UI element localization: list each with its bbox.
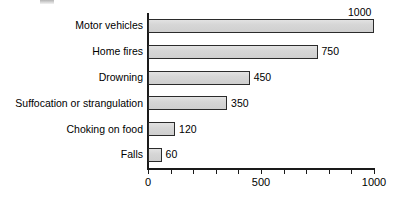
category-label: Falls [121, 149, 143, 160]
category-label: Suffocation or strangulation [15, 98, 143, 109]
category-label: Motor vehicles [75, 20, 143, 31]
bar-value-label: 750 [322, 46, 340, 57]
bar [148, 45, 318, 59]
bar-value-label: 60 [166, 149, 178, 160]
bar-row: Falls60 [0, 148, 394, 173]
bar [148, 19, 374, 33]
bar-value-label: 350 [231, 98, 249, 109]
category-label: Drowning [99, 72, 143, 83]
page-edge-artifact [40, 0, 54, 4]
x-axis-tick-label: 1000 [362, 176, 386, 188]
bar-row: Drowning450 [0, 71, 394, 96]
bar [148, 148, 162, 162]
category-label: Home fires [92, 46, 143, 57]
bar-row: Choking on food120 [0, 122, 394, 147]
bar-value-label: 1000 [348, 7, 371, 18]
bar [148, 96, 227, 110]
bar-row: Home fires750 [0, 45, 394, 70]
category-label: Choking on food [67, 124, 143, 135]
bar-value-label: 450 [254, 72, 272, 83]
bar [148, 71, 250, 85]
x-axis-tick-label: 0 [145, 176, 151, 188]
bar-row: Suffocation or strangulation350 [0, 96, 394, 121]
bar-row: Motor vehicles1000 [0, 19, 394, 44]
bar [148, 122, 175, 136]
x-axis-tick-label: 500 [252, 176, 270, 188]
bar-value-label: 120 [179, 124, 197, 135]
bar-chart: 05001000 Motor vehicles1000Home fires750… [0, 0, 394, 197]
